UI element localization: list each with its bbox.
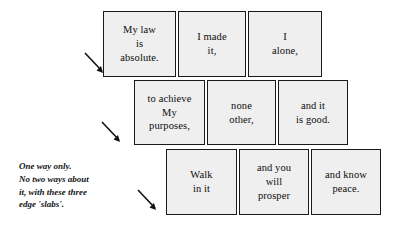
slab-row3-col2: and you will prosper <box>239 149 309 215</box>
slab-row1-col1: My law is absolute. <box>103 11 176 77</box>
slab-text: to achieve My purposes, <box>148 92 192 134</box>
slab-row2-col3: and it is good. <box>278 80 348 145</box>
arrow-down-right-icon <box>83 51 109 77</box>
slab-row1-col2: I made it, <box>178 11 246 77</box>
slab-row3-col1: Walk in it <box>166 149 237 215</box>
diagram-caption: One way only. No two ways about it, with… <box>19 160 123 211</box>
slab-row2-col2: none other, <box>207 80 276 145</box>
slab-text: I alone, <box>272 30 298 58</box>
slab-row1-col3: I alone, <box>248 11 322 77</box>
arrow-down-right-icon <box>100 120 126 146</box>
slab-row3-col3: and know peace. <box>311 149 381 215</box>
slab-text: none other, <box>229 99 253 127</box>
slab-text: and know peace. <box>325 168 367 196</box>
slab-text: I made it, <box>197 30 226 58</box>
diagram-canvas: My law is absolute. I made it, I alone, … <box>0 0 404 226</box>
slab-text: and it is good. <box>296 99 330 127</box>
slab-row2-col1: to achieve My purposes, <box>134 80 205 145</box>
slab-text: and you will prosper <box>257 161 291 203</box>
slab-text: Walk in it <box>190 168 212 196</box>
arrow-down-right-icon <box>136 188 162 214</box>
slab-text: My law is absolute. <box>120 23 159 65</box>
